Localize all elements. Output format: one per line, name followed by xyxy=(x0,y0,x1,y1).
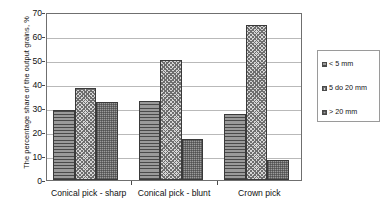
chart-legend: < 5 mm5 do 20 mm> 20 mm xyxy=(317,50,380,122)
y-axis-tick-mark xyxy=(42,181,45,182)
bar xyxy=(246,25,268,180)
legend-item-label: < 5 mm xyxy=(329,60,353,68)
series-2-swatch-icon xyxy=(322,86,327,91)
y-axis-tick-label: 70 xyxy=(20,9,42,18)
y-axis-tick-mark xyxy=(42,85,45,86)
bar xyxy=(224,114,246,180)
legend-item-label: > 20 mm xyxy=(329,108,357,116)
y-axis-tick-mark xyxy=(42,109,45,110)
y-axis-tick-label: 30 xyxy=(20,105,42,114)
legend-item[interactable]: 5 do 20 mm xyxy=(322,84,367,92)
y-axis-tick-label: 0 xyxy=(20,177,42,186)
y-axis-tick-labels: 706050403020100 xyxy=(20,13,42,181)
bar xyxy=(75,88,97,180)
y-axis-tick-label: 60 xyxy=(20,33,42,42)
bar-chart: The percentage share of the output grain… xyxy=(0,0,392,214)
y-axis-tick-label: 50 xyxy=(20,57,42,66)
bars-layer xyxy=(47,14,301,180)
y-axis-tick-mark xyxy=(42,157,45,158)
bar xyxy=(53,110,75,180)
y-axis-tick-label: 10 xyxy=(20,153,42,162)
series-3-swatch-icon xyxy=(322,110,327,115)
series-1-swatch-icon xyxy=(322,62,327,67)
y-axis-tick-mark xyxy=(42,133,45,134)
bar xyxy=(96,102,118,180)
y-axis-tick-mark xyxy=(42,13,45,14)
y-axis-tick-mark xyxy=(42,37,45,38)
x-axis-tick-mark xyxy=(131,181,132,185)
x-axis-tick-label: Conical pick - sharp xyxy=(46,188,131,198)
x-axis-tick-label: Crown pick xyxy=(217,188,302,198)
bar xyxy=(182,139,204,180)
legend-item-label: 5 do 20 mm xyxy=(329,84,367,92)
plot-area xyxy=(46,13,302,181)
bar xyxy=(267,160,289,180)
y-axis-tick-label: 40 xyxy=(20,81,42,90)
x-axis-tick-label: Conical pick - blunt xyxy=(131,188,216,198)
bar xyxy=(139,101,161,180)
legend-item[interactable]: > 20 mm xyxy=(322,108,357,116)
x-axis-tick-mark xyxy=(217,181,218,185)
legend-item[interactable]: < 5 mm xyxy=(322,60,353,68)
y-axis-tick-mark xyxy=(42,61,45,62)
y-axis-tick-label: 20 xyxy=(20,129,42,138)
bar xyxy=(160,60,182,180)
